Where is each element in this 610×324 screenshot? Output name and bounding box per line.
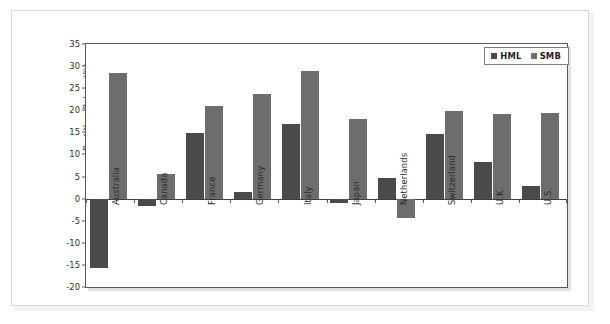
y-axis-tick-mark xyxy=(82,154,86,155)
y-axis-tick-label: -5 xyxy=(72,216,80,226)
x-axis-category-label: U.S. xyxy=(543,187,553,204)
x-axis-tick-mark xyxy=(327,199,328,203)
y-axis-tick-label: 30 xyxy=(69,61,80,71)
bar-hml-japan[interactable] xyxy=(330,199,348,203)
x-axis-tick-mark xyxy=(423,199,424,203)
bar-hml-canada[interactable] xyxy=(138,199,156,207)
y-axis-tick-label: 10 xyxy=(69,149,80,159)
bar-hml-italy[interactable] xyxy=(282,124,300,199)
y-axis-tick-label: -10 xyxy=(66,238,80,248)
x-axis-category-label: France xyxy=(207,176,217,204)
y-axis-tick-label: -20 xyxy=(66,282,80,292)
x-axis-tick-mark xyxy=(278,199,279,203)
legend-item-smb[interactable]: SMB xyxy=(531,51,561,61)
chart-figure: Past Year Return (%) 35302520151050-5-10… xyxy=(26,26,578,298)
y-axis-tick-label: 25 xyxy=(69,83,80,93)
y-axis-tick-mark xyxy=(82,242,86,243)
x-axis-category-label: Italy xyxy=(303,186,313,205)
y-axis-tick-mark xyxy=(82,44,86,45)
plot-area-wrapper: 35302520151050-5-10-15-20AustraliaCanada… xyxy=(85,43,568,288)
bar-hml-germany[interactable] xyxy=(234,192,252,199)
y-axis-tick-mark xyxy=(82,88,86,89)
bar-hml-u-s[interactable] xyxy=(522,186,540,199)
x-axis-tick-mark xyxy=(134,199,135,203)
y-axis-tick-label: 20 xyxy=(69,105,80,115)
bar-hml-australia[interactable] xyxy=(90,199,108,269)
x-axis-category-label: Japan xyxy=(351,181,361,205)
x-axis-category-label: Australia xyxy=(111,167,121,205)
bar-hml-netherlands[interactable] xyxy=(378,178,396,199)
bar-hml-france[interactable] xyxy=(186,133,204,198)
y-axis-tick-label: 0 xyxy=(75,194,80,204)
legend-swatch-smb-icon xyxy=(531,53,537,59)
y-axis-tick-label: -15 xyxy=(66,260,80,270)
x-axis-category-label: Netherlands xyxy=(399,152,409,204)
x-axis-tick-mark xyxy=(230,199,231,203)
x-axis-category-label: Germany xyxy=(255,165,265,204)
y-axis-tick-label: 5 xyxy=(75,172,80,182)
y-axis-tick-mark xyxy=(82,264,86,265)
bar-hml-switzerland[interactable] xyxy=(426,134,444,199)
y-axis-tick-mark xyxy=(82,176,86,177)
y-axis-tick-mark xyxy=(82,132,86,133)
plot-area: 35302520151050-5-10-15-20AustraliaCanada… xyxy=(85,43,568,288)
bar-smb-italy[interactable] xyxy=(301,71,319,199)
legend-swatch-hml-icon xyxy=(491,53,497,59)
x-axis-tick-mark xyxy=(519,199,520,203)
y-axis-tick-label: 15 xyxy=(69,127,80,137)
y-axis-tick-label: 35 xyxy=(69,39,80,49)
legend-item-hml[interactable]: HML xyxy=(491,51,521,61)
y-axis-tick-mark xyxy=(82,110,86,111)
x-axis-tick-mark xyxy=(471,199,472,203)
bar-smb-u-s[interactable] xyxy=(541,113,559,198)
y-axis-tick-mark xyxy=(82,287,86,288)
bar-smb-u-k[interactable] xyxy=(493,114,511,198)
x-axis-category-label: Switzerland xyxy=(447,155,457,205)
chart-legend: HML SMB xyxy=(484,47,569,65)
bar-hml-u-k[interactable] xyxy=(474,162,492,199)
y-axis-tick-mark xyxy=(82,220,86,221)
page-root: Past Year Return (%) 35302520151050-5-10… xyxy=(0,0,610,324)
x-axis-category-label: Canada xyxy=(159,172,169,204)
x-axis-tick-mark xyxy=(375,199,376,203)
x-axis-tick-mark xyxy=(182,199,183,203)
y-axis-tick-mark xyxy=(82,66,86,67)
x-axis-category-label: U.K. xyxy=(495,187,505,204)
legend-label-hml: HML xyxy=(500,51,521,61)
x-axis-tick-mark xyxy=(566,199,567,203)
legend-label-smb: SMB xyxy=(540,51,561,61)
x-axis-tick-mark xyxy=(86,199,87,203)
